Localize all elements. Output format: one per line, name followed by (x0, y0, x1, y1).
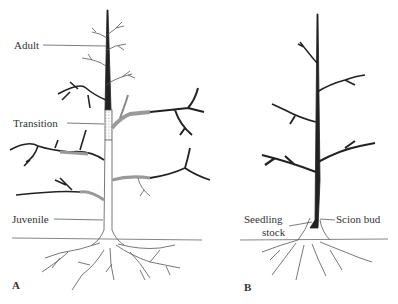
transition-trunk (105, 110, 112, 140)
label-stock: stock (262, 227, 285, 238)
label-adult: Adult (14, 40, 39, 51)
label-seedling: Seedling (244, 214, 283, 225)
label-juvenile: Juvenile (12, 214, 49, 225)
ground-line-a (12, 238, 202, 240)
transition-leader (67, 123, 104, 124)
ground-line-b (240, 239, 388, 240)
label-transition: Transition (13, 118, 58, 129)
seedling-leader (289, 222, 312, 226)
tree-b (240, 14, 388, 280)
scion-leader (320, 219, 335, 220)
adult-leader (43, 45, 106, 46)
panel-letter-b: B (244, 281, 251, 293)
tree-a (10, 10, 210, 290)
label-scion-bud: Scion bud (336, 214, 380, 225)
juvenile-leader (54, 219, 103, 220)
tree-diagram (0, 0, 398, 304)
adult-trunk (105, 10, 111, 110)
panel-letter-a: A (12, 279, 20, 291)
